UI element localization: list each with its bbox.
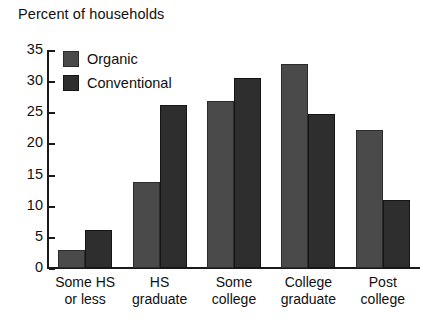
x-axis-category-label: Postcollege [346, 274, 420, 308]
bar-organic [356, 130, 383, 268]
y-axis-tick-label: 0 [35, 259, 43, 275]
bar-organic [207, 101, 234, 268]
bar-conventional [383, 200, 410, 268]
x-axis-category-label: Collegegraduate [271, 274, 345, 308]
y-axis-tick-label: 5 [35, 228, 43, 244]
bar-chart: Percent of households 05101520253035 Som… [0, 0, 442, 334]
y-axis-tick-label: 35 [27, 41, 43, 57]
bar-conventional [85, 230, 112, 268]
legend-swatch-organic-icon [63, 51, 79, 67]
legend-label-organic: Organic [87, 51, 138, 67]
y-axis-tick-label: 20 [27, 134, 43, 150]
bar-organic [133, 182, 160, 268]
bar-conventional [160, 105, 187, 268]
y-axis-tick-mark [49, 268, 55, 270]
y-axis-tick-label: 10 [27, 197, 43, 213]
x-axis-category-label: Somecollege [197, 274, 271, 308]
y-axis-tick-label: 25 [27, 103, 43, 119]
legend-item-organic: Organic [63, 48, 172, 70]
x-axis-category-label: Some HSor less [48, 274, 122, 308]
legend-swatch-conventional-icon [63, 75, 79, 91]
chart-title: Percent of households [18, 6, 164, 22]
bar-conventional [234, 78, 261, 268]
x-axis-category-label: HSgraduate [122, 274, 196, 308]
y-axis-tick-label: 15 [27, 166, 43, 182]
bar-organic [58, 250, 85, 268]
chart-legend: Organic Conventional [63, 48, 172, 96]
bar-organic [281, 64, 308, 268]
y-axis-tick-label: 30 [27, 72, 43, 88]
bar-conventional [308, 114, 335, 268]
legend-label-conventional: Conventional [87, 75, 172, 91]
legend-item-conventional: Conventional [63, 72, 172, 94]
